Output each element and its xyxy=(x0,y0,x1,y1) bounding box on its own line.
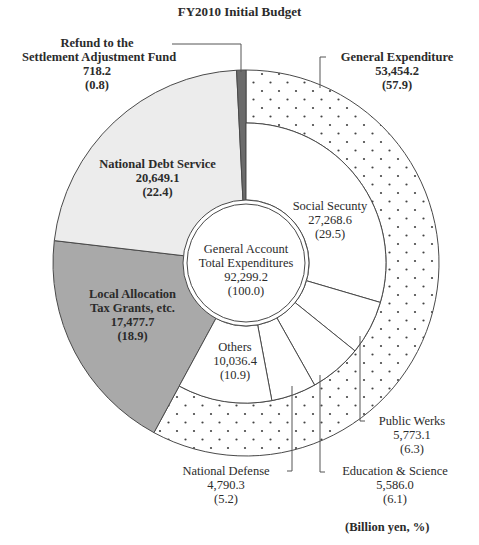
label-local-line2: Tax Grants, etc. xyxy=(70,301,195,315)
label-defense-value: 4,790.3 xyxy=(165,478,287,492)
label-others-pct: (10.9) xyxy=(200,368,270,382)
label-education-value: 5,586.0 xyxy=(325,478,465,492)
label-refund-line1: Refund to the xyxy=(22,36,172,50)
label-national-debt: National Debt Service 20,649.1 (22.4) xyxy=(85,157,230,199)
label-local-pct: (18.9) xyxy=(70,329,195,343)
label-education-line1: Education & Science xyxy=(325,464,465,478)
label-public-pct: (6.3) xyxy=(362,442,462,456)
label-refund-pct: (0.8) xyxy=(22,78,172,92)
label-public-value: 5,773.1 xyxy=(362,428,462,442)
label-refund-value: 718.2 xyxy=(22,64,172,78)
label-general-value: 53,454.2 xyxy=(322,64,472,78)
label-social-pct: (29.5) xyxy=(275,227,385,241)
label-local-allocation: Local Allocation Tax Grants, etc. 17,477… xyxy=(70,287,195,343)
label-debt-pct: (22.4) xyxy=(85,185,230,199)
chart-title: FY2010 Initial Budget xyxy=(0,4,479,20)
label-refund: Refund to the Settlement Adjustment Fund… xyxy=(22,36,172,92)
label-general-line1: General Expenditure xyxy=(322,50,472,64)
unit-note: (Billion yen, %) xyxy=(345,520,429,535)
center-line1: General Account xyxy=(183,242,309,256)
label-general-pct: (57.9) xyxy=(322,78,472,92)
leader-refund xyxy=(172,44,241,72)
label-public-works: Public Werks 5,773.1 (6.3) xyxy=(362,414,462,456)
label-education-pct: (6.1) xyxy=(325,492,465,506)
label-education-science: Education & Science 5,586.0 (6.1) xyxy=(325,464,465,506)
label-others-line1: Others xyxy=(200,340,270,354)
label-general-expenditure: General Expenditure 53,454.2 (57.9) xyxy=(322,50,472,92)
center-value: 92,299.2 xyxy=(183,270,309,284)
label-local-value: 17,477.7 xyxy=(70,315,195,329)
label-national-defense: National Defense 4,790.3 (5.2) xyxy=(165,464,287,506)
label-public-line1: Public Werks xyxy=(362,414,462,428)
label-social-security: Social Secunty 27,268.6 (29.5) xyxy=(275,199,385,241)
label-social-value: 27,268.6 xyxy=(275,213,385,227)
label-debt-line1: National Debt Service xyxy=(85,157,230,171)
label-defense-line1: National Defense xyxy=(165,464,287,478)
label-center-total: General Account Total Expenditures 92,29… xyxy=(183,242,309,298)
label-social-line1: Social Secunty xyxy=(275,199,385,213)
center-line2: Total Expenditures xyxy=(183,256,309,270)
label-refund-line2: Settlement Adjustment Fund xyxy=(22,50,172,64)
center-pct: (100.0) xyxy=(183,284,309,298)
label-debt-value: 20,649.1 xyxy=(85,171,230,185)
label-others-value: 10,036.4 xyxy=(200,354,270,368)
label-local-line1: Local Allocation xyxy=(70,287,195,301)
label-others: Others 10,036.4 (10.9) xyxy=(200,340,270,382)
label-defense-pct: (5.2) xyxy=(165,492,287,506)
